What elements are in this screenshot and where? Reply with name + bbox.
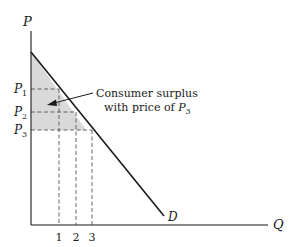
annotation-line-2: with price of P3: [104, 101, 191, 116]
price-axis-label: P: [22, 14, 32, 29]
consumer-surplus-area: [31, 52, 86, 130]
quantity-tick-2: 2: [73, 231, 80, 244]
demand-curve: [31, 52, 164, 216]
price-label-p2: P2: [13, 105, 27, 121]
quantity-tick-3: 3: [89, 231, 96, 244]
quantity-tick-1: 1: [56, 231, 63, 244]
consumer-surplus-diagram: P Q D P1 P2 P3 1 2 3 Consumer surplus wi…: [0, 0, 295, 247]
price-label-p1: P1: [13, 82, 27, 98]
demand-label: D: [167, 210, 178, 224]
quantity-axis-label: Q: [273, 217, 284, 232]
annotation-line-1: Consumer surplus: [96, 87, 198, 100]
price-label-p3: P3: [13, 123, 27, 139]
